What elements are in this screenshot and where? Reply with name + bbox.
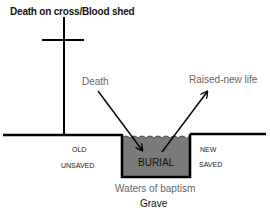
death-label: Death (82, 76, 109, 87)
diagram-title: Death on cross/Blood shed (10, 6, 134, 17)
new-label: NEW (200, 146, 216, 153)
burial-label: BURIAL (138, 157, 174, 168)
grave-label: Grave (140, 198, 167, 209)
waters-label: Waters of baptism (115, 183, 195, 194)
raised-label: Raised-new life (189, 74, 257, 85)
cross-icon (42, 17, 84, 136)
baptism-diagram: Death on cross/Blood shed Death Raised-n… (0, 0, 270, 215)
grave-pit (122, 134, 190, 177)
saved-label: SAVED (199, 161, 222, 168)
unsaved-label: UNSAVED (61, 162, 94, 169)
death-arrow (98, 91, 142, 150)
old-label: OLD (72, 146, 86, 153)
